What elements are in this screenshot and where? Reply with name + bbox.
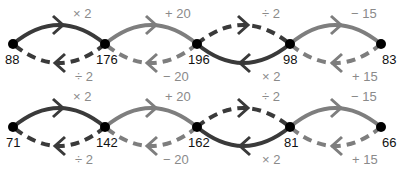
- node-value: 162: [188, 135, 210, 150]
- row-1: × 2 ÷ 2 + 20 − 20 ÷ 2 × 2: [5, 6, 396, 84]
- node-value: 98: [283, 52, 297, 67]
- segment-1-3: ÷ 2 × 2: [197, 6, 290, 84]
- inverse-op-label: ÷ 2: [75, 69, 93, 84]
- node-dot: [192, 39, 202, 49]
- inverse-op-label: ÷ 2: [75, 152, 93, 167]
- forward-op-label: + 20: [165, 6, 191, 21]
- forward-op-label: × 2: [73, 89, 91, 104]
- inverse-op-label: + 15: [352, 152, 378, 167]
- node-dot: [285, 122, 295, 132]
- forward-op-label: − 15: [351, 89, 377, 104]
- inverse-op-label: − 20: [163, 69, 189, 84]
- node-value: 71: [6, 135, 20, 150]
- forward-arc: [290, 108, 381, 127]
- segment-2-4: − 15 + 15: [290, 89, 381, 167]
- forward-op-label: ÷ 2: [262, 89, 280, 104]
- function-machine-diagram: × 2 ÷ 2 + 20 − 20 ÷ 2 × 2: [0, 0, 399, 171]
- inverse-op-label: × 2: [262, 152, 280, 167]
- segment-1-4: − 15 + 15: [290, 6, 381, 84]
- node-dot: [192, 122, 202, 132]
- node-dot: [100, 122, 110, 132]
- node-value: 196: [188, 52, 210, 67]
- node-value: 142: [96, 135, 118, 150]
- node-value: 83: [382, 52, 396, 67]
- forward-op-label: − 15: [351, 6, 377, 21]
- node-value: 176: [96, 52, 118, 67]
- node-dot: [8, 39, 18, 49]
- segment-2-3: ÷ 2 × 2: [197, 89, 290, 167]
- forward-op-label: + 20: [165, 89, 191, 104]
- node-dot: [285, 39, 295, 49]
- node-dot: [376, 122, 386, 132]
- inverse-op-label: × 2: [262, 69, 280, 84]
- node-value: 88: [5, 52, 19, 67]
- diagram-canvas: × 2 ÷ 2 + 20 − 20 ÷ 2 × 2: [0, 0, 399, 171]
- node-value: 66: [382, 135, 396, 150]
- inverse-op-label: + 15: [352, 69, 378, 84]
- node-dot: [376, 39, 386, 49]
- segment-1-1: × 2 ÷ 2: [13, 6, 105, 84]
- node-value: 81: [284, 135, 298, 150]
- inverse-op-label: − 20: [163, 152, 189, 167]
- forward-op-label: × 2: [73, 6, 91, 21]
- node-dot: [100, 39, 110, 49]
- forward-arc: [290, 25, 381, 44]
- row-2: × 2 ÷ 2 + 20 − 20 ÷ 2 × 2: [6, 89, 396, 167]
- segment-1-2: + 20 − 20: [105, 6, 197, 84]
- forward-op-label: ÷ 2: [262, 6, 280, 21]
- segment-2-2: + 20 − 20: [105, 89, 197, 167]
- segment-2-1: × 2 ÷ 2: [13, 89, 105, 167]
- node-dot: [8, 122, 18, 132]
